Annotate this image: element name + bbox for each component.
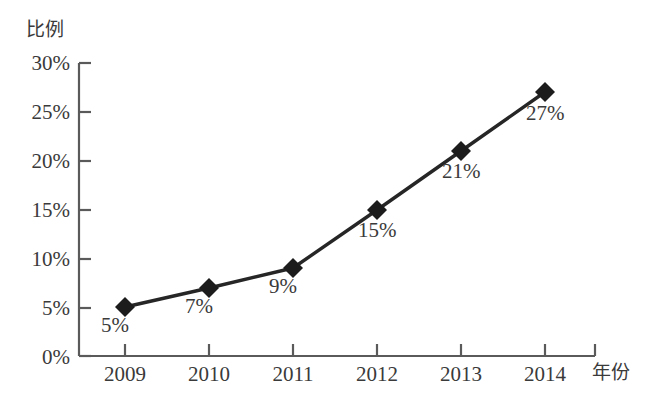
data-label-2009: 5% [101,315,129,336]
data-label-2011: 9% [269,276,297,297]
line-chart: 比例 年份 30% 25% 20% 15% 10% 5% 0% 2009 201… [0,0,645,408]
plot-area [0,0,645,408]
data-series-line [125,92,545,307]
data-label-2012: 15% [358,220,397,241]
data-point-marker-2014 [535,82,555,102]
x-axis-ticks [125,344,595,356]
data-point-marker-2012 [367,200,387,220]
data-point-marker-2013 [451,141,471,161]
data-point-markers [115,82,555,317]
y-axis-ticks [79,63,91,356]
data-label-2010: 7% [185,296,213,317]
data-label-2014: 27% [526,103,565,124]
data-label-2013: 21% [442,161,481,182]
